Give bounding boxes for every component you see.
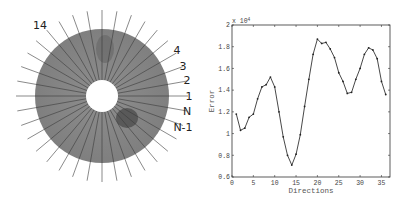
data-point [248, 116, 250, 118]
data-point [329, 48, 331, 50]
data-point [278, 111, 280, 113]
data-point [334, 57, 336, 59]
x-tick-label: 10 [271, 180, 279, 187]
x-tick-label: 15 [292, 180, 300, 187]
data-point [312, 53, 314, 55]
data-point [317, 38, 319, 40]
data-point [308, 78, 310, 80]
data-point [240, 129, 242, 131]
plot-area [232, 25, 390, 177]
data-point [381, 81, 383, 83]
data-point [299, 134, 301, 136]
data-point [325, 41, 327, 43]
y-axis-label: Error [208, 90, 216, 113]
radial-disk-diagram [16, 10, 188, 182]
data-point [261, 86, 263, 88]
data-point [351, 91, 353, 93]
data-point [338, 72, 340, 74]
direction-label: N-1 [173, 121, 192, 134]
direction-label: 14 [33, 19, 47, 32]
data-point [257, 98, 259, 100]
data-point [244, 127, 246, 129]
data-point [304, 106, 306, 108]
data-point [368, 47, 370, 49]
x-tick-label: 0 [230, 180, 234, 187]
direction-label: 4 [174, 44, 181, 57]
data-point [291, 164, 293, 166]
x-tick-label: 35 [378, 180, 386, 187]
x-tick-label: 20 [313, 180, 321, 187]
data-point [235, 113, 237, 115]
x-tick-label: 30 [356, 180, 364, 187]
y-tick-label: 1.8 [218, 44, 230, 51]
data-point [372, 49, 374, 51]
data-point [342, 81, 344, 83]
data-point [359, 68, 361, 70]
y-tick-label: 1.2 [218, 109, 230, 116]
data-point [376, 58, 378, 60]
data-point [282, 136, 284, 138]
center-hole [86, 80, 118, 112]
data-point [321, 43, 323, 45]
y-tick-label: 0.6 [218, 174, 230, 181]
data-point [270, 76, 272, 78]
y-tick-label: 0.8 [218, 153, 230, 160]
data-point [274, 86, 276, 88]
figure: 144321NN-1 0.60.811.21.41.61.82 05101520… [0, 0, 411, 203]
error-series-line [236, 39, 385, 165]
y-tick-label: 1 [226, 131, 230, 138]
x-axis-label: Directions [288, 187, 333, 195]
x-tick-label: 25 [335, 180, 343, 187]
data-point [346, 93, 348, 95]
y-multiplier-label: x 104 [232, 17, 251, 26]
data-point [355, 78, 357, 80]
dark-region-top [96, 35, 114, 63]
x-axis-ticks: 05101520253035 [230, 25, 385, 187]
data-point [385, 94, 387, 96]
direction-label: N [183, 105, 191, 118]
dark-region-right [116, 108, 138, 128]
data-point [363, 53, 365, 55]
y-tick-label: 1.6 [218, 66, 230, 73]
data-point [295, 153, 297, 155]
direction-label: 2 [184, 74, 191, 87]
direction-label: 1 [186, 90, 193, 103]
error-line-chart: 0.60.811.21.41.61.82 05101520253035 x 10… [208, 17, 390, 196]
y-tick-label: 2 [226, 22, 230, 29]
data-point [287, 154, 289, 156]
x-tick-label: 5 [251, 180, 255, 187]
y-tick-label: 1.4 [218, 87, 230, 94]
direction-label: 3 [180, 60, 187, 73]
data-point [265, 84, 267, 86]
data-point [252, 113, 254, 115]
y-axis-ticks: 0.60.811.21.41.61.82 [218, 22, 390, 181]
data-point-markers [235, 38, 386, 166]
